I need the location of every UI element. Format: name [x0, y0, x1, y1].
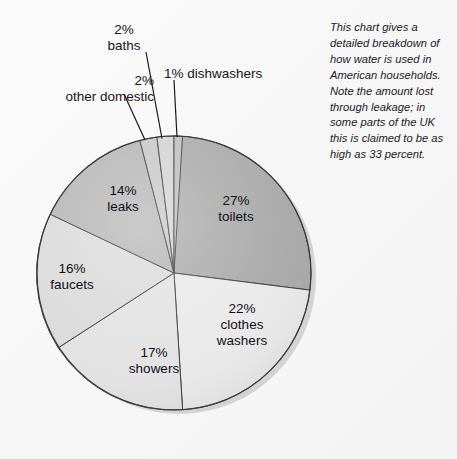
- callout-dishwashers: 1% dishwashers: [164, 66, 314, 82]
- slice-label-toilets-pct: 27%: [195, 193, 277, 209]
- callout-dishwashers-name: dishwashers: [187, 66, 262, 81]
- chart-page: 2% other domestic 2% baths 1% dishwasher…: [0, 0, 457, 459]
- slice-label-clothes-washers-name2: washers: [196, 333, 288, 349]
- slice-label-faucets: 16% faucets: [28, 261, 116, 293]
- slice-label-clothes-washers-pct: 22%: [196, 301, 288, 317]
- callout-baths: 2% baths: [84, 22, 164, 54]
- callout-other-domestic-name: other domestic: [14, 89, 154, 105]
- slice-label-toilets-name: toilets: [195, 209, 277, 225]
- callout-other-domestic-pct: 2%: [14, 73, 154, 89]
- slice-label-showers-pct: 17%: [108, 345, 200, 361]
- slice-label-showers-name: showers: [108, 361, 200, 377]
- slice-label-leaks-name: leaks: [84, 199, 162, 215]
- slice-label-faucets-pct: 16%: [28, 261, 116, 277]
- slice-label-clothes-washers-name1: clothes: [196, 317, 288, 333]
- slice-label-toilets: 27% toilets: [195, 193, 277, 225]
- callout-baths-name: baths: [84, 38, 164, 54]
- slice-label-faucets-name: faucets: [28, 277, 116, 293]
- chart-caption: This chart gives a detailed breakdown of…: [330, 20, 448, 163]
- slice-label-showers: 17% showers: [108, 345, 200, 377]
- slice-label-clothes-washers: 22% clothes washers: [196, 301, 288, 350]
- slice-label-leaks: 14% leaks: [84, 183, 162, 215]
- callout-baths-pct: 2%: [84, 22, 164, 38]
- slice-label-leaks-pct: 14%: [84, 183, 162, 199]
- leader-line-dishwashers: [174, 80, 177, 137]
- callout-dishwashers-pct: 1%: [164, 66, 184, 81]
- callout-other-domestic: 2% other domestic: [14, 73, 154, 105]
